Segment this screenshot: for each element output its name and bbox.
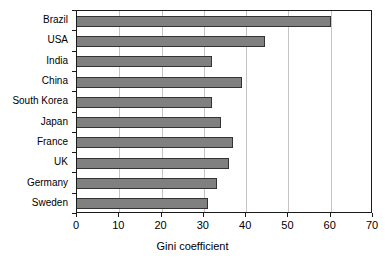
x-tick-label: 20 [141,219,181,231]
bar-germany [77,178,217,189]
bar-india [77,56,212,67]
x-tick-mark [372,213,373,217]
bar-row [77,92,371,112]
y-tick-mark [72,10,76,11]
y-tick-label-china: China [42,76,68,86]
bar-row [77,113,371,133]
y-tick-label-france: France [37,137,68,147]
y-tick-label-uk: UK [54,157,68,167]
bar-china [77,77,242,88]
bar-france [77,137,233,148]
bar-row [77,173,371,193]
bar-row [77,11,371,31]
y-tick-label-usa: USA [47,35,68,45]
bar-japan [77,117,221,128]
x-tick-mark [245,213,246,217]
y-tick-mark [72,71,76,72]
y-tick-mark [72,172,76,173]
bar-brazil [77,16,331,27]
x-tick-label: 50 [267,219,307,231]
x-tick-mark [287,213,288,217]
bar-row [77,52,371,72]
y-tick-mark [72,112,76,113]
bar-row [77,133,371,153]
x-tick-label: 30 [183,219,223,231]
x-tick-label: 60 [310,219,350,231]
bars-layer [77,11,371,212]
x-tick-mark [203,213,204,217]
y-tick-mark [72,152,76,153]
y-tick-mark [72,193,76,194]
bar-south-korea [77,97,212,108]
gini-coefficient-bar-chart: BrazilUSAIndiaChinaSouth KoreaJapanFranc… [0,0,385,264]
bar-uk [77,158,229,169]
plot-area [76,10,372,213]
y-tick-label-germany: Germany [27,178,68,188]
x-tick-mark [76,213,77,217]
bar-row [77,194,371,214]
x-tick-mark [161,213,162,217]
x-tick-mark [118,213,119,217]
bar-row [77,72,371,92]
x-tick-mark [330,213,331,217]
bar-row [77,153,371,173]
y-tick-label-japan: Japan [41,117,68,127]
x-axis-title: Gini coefficient [0,240,385,253]
x-tick-label: 0 [56,219,96,231]
bar-sweden [77,198,208,209]
x-tick-label: 40 [225,219,265,231]
bar-row [77,31,371,51]
y-tick-mark [72,30,76,31]
y-tick-mark [72,132,76,133]
y-tick-label-india: India [46,56,68,66]
y-tick-label-south-korea: South Korea [12,96,68,106]
y-tick-label-brazil: Brazil [43,15,68,25]
y-tick-mark [72,91,76,92]
y-tick-mark [72,51,76,52]
x-tick-label: 70 [352,219,385,231]
y-tick-label-sweden: Sweden [32,198,68,208]
x-tick-label: 10 [98,219,138,231]
bar-usa [77,36,265,47]
